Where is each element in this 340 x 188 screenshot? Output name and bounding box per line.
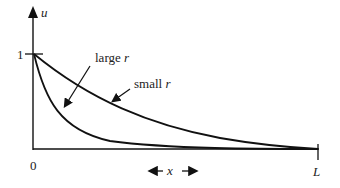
small-r-curve bbox=[34, 54, 318, 149]
small-r-pointer bbox=[113, 89, 130, 101]
small-r-label: small r bbox=[134, 76, 171, 91]
decay-diagram: u 1 0 L large r small r x bbox=[0, 0, 340, 188]
y-tick-label: 1 bbox=[17, 47, 24, 62]
y-axis-label: u bbox=[41, 5, 48, 20]
large-r-curve bbox=[34, 54, 318, 149]
end-label: L bbox=[312, 164, 320, 179]
large-r-pointer bbox=[65, 66, 90, 106]
large-r-label: large r bbox=[95, 50, 130, 65]
y-axis-arrow-icon bbox=[28, 6, 38, 18]
x-axis-label: x bbox=[166, 163, 173, 178]
origin-label: 0 bbox=[30, 158, 37, 173]
